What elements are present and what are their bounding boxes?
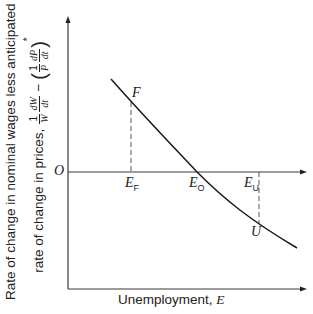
fraction-1-over-P: 1P [29,64,50,72]
open-paren: ( [28,73,50,80]
fraction-1-over-W: 1W [29,114,50,124]
point-label-U: U [251,224,261,240]
tick-label-E-F: EF [125,175,139,193]
y-axis-label-prefix: rate of change in prices, [31,129,46,273]
phillips-curve-diagram: Rate of change in nominal wages less ant… [0,0,313,314]
fraction-dW-dt: dWdt [29,96,50,111]
y-axis-arrow-icon [66,16,71,23]
x-axis-bottom-arrow-icon [300,287,307,292]
y-axis-label-line2: rate of change in prices, 1WdWdt − (1PdP… [19,10,50,300]
anticipated-star: * [22,37,33,41]
tick-label-E-O: EO [189,175,205,193]
x-axis-zero-arrow-icon [300,170,307,175]
minus-sign: − [31,84,46,92]
point-label-F: F [132,85,141,101]
close-paren: ) [28,41,50,48]
tick-label-E-U: EU [244,175,259,193]
y-axis-label-line1: Rate of change in nominal wages less ant… [2,10,19,300]
fraction-dP-dt: dPdt [29,49,50,62]
y-axis-label: Rate of change in nominal wages less ant… [2,10,50,300]
origin-label: O [54,163,64,179]
wage-adjustment-curve [111,79,297,248]
x-axis-label: Unemployment, E [118,292,225,308]
